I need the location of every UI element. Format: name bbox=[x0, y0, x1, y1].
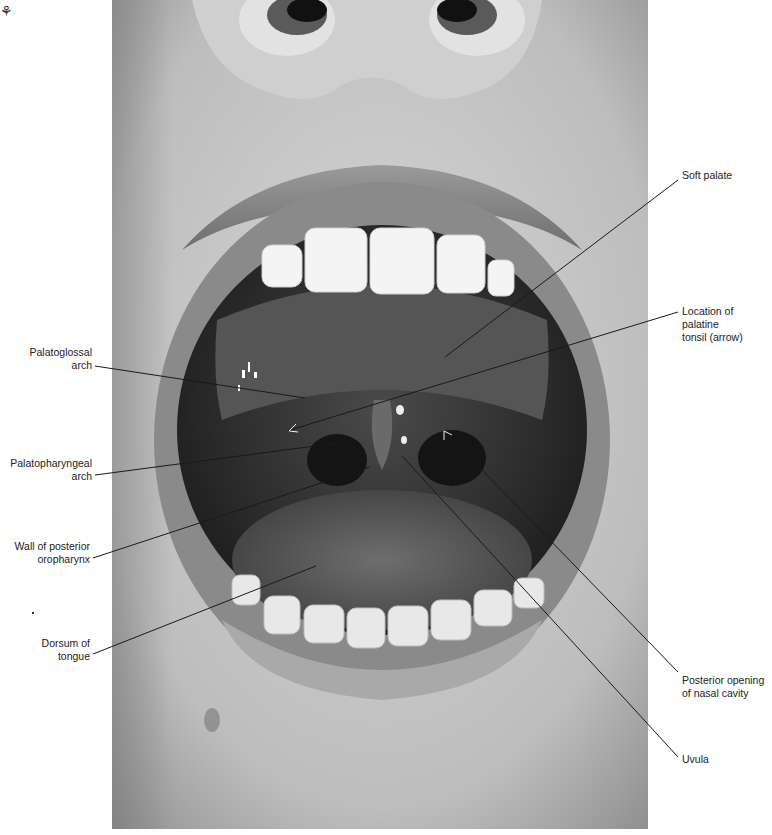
stray-dot bbox=[32, 612, 34, 614]
label-text: Location of palatine bbox=[682, 305, 772, 331]
label-posterior-oropharynx-wall: Wall of posterior oropharynx bbox=[15, 540, 90, 566]
label-palatoglossal-arch: Palatoglossal arch bbox=[30, 346, 92, 372]
label-text: tonsil (arrow) bbox=[682, 331, 772, 344]
label-palatopharyngeal-arch: Palatopharyngeal arch bbox=[10, 457, 92, 483]
label-text: oropharynx bbox=[15, 553, 90, 566]
label-soft-palate: Soft palate bbox=[682, 169, 732, 182]
label-text: Soft palate bbox=[682, 169, 732, 181]
label-text: Dorsum of bbox=[42, 637, 90, 650]
corner-mark-icon: ⚘ bbox=[0, 4, 13, 18]
mouth-photograph bbox=[112, 0, 648, 829]
label-text: Uvula bbox=[682, 753, 709, 765]
label-text: arch bbox=[10, 470, 92, 483]
label-text: Palatopharyngeal bbox=[10, 457, 92, 470]
label-text: Posterior opening bbox=[682, 674, 764, 687]
label-text: arch bbox=[30, 359, 92, 372]
label-posterior-nasal-opening: Posterior opening of nasal cavity bbox=[682, 674, 764, 700]
label-text: of nasal cavity bbox=[682, 687, 764, 700]
label-text: Wall of posterior bbox=[15, 540, 90, 553]
label-dorsum-of-tongue: Dorsum of tongue bbox=[42, 637, 90, 663]
label-text: Palatoglossal bbox=[30, 346, 92, 359]
label-text: tongue bbox=[42, 650, 90, 663]
label-uvula: Uvula bbox=[682, 753, 709, 766]
label-palatine-tonsil: Location of palatine tonsil (arrow) bbox=[682, 305, 772, 344]
